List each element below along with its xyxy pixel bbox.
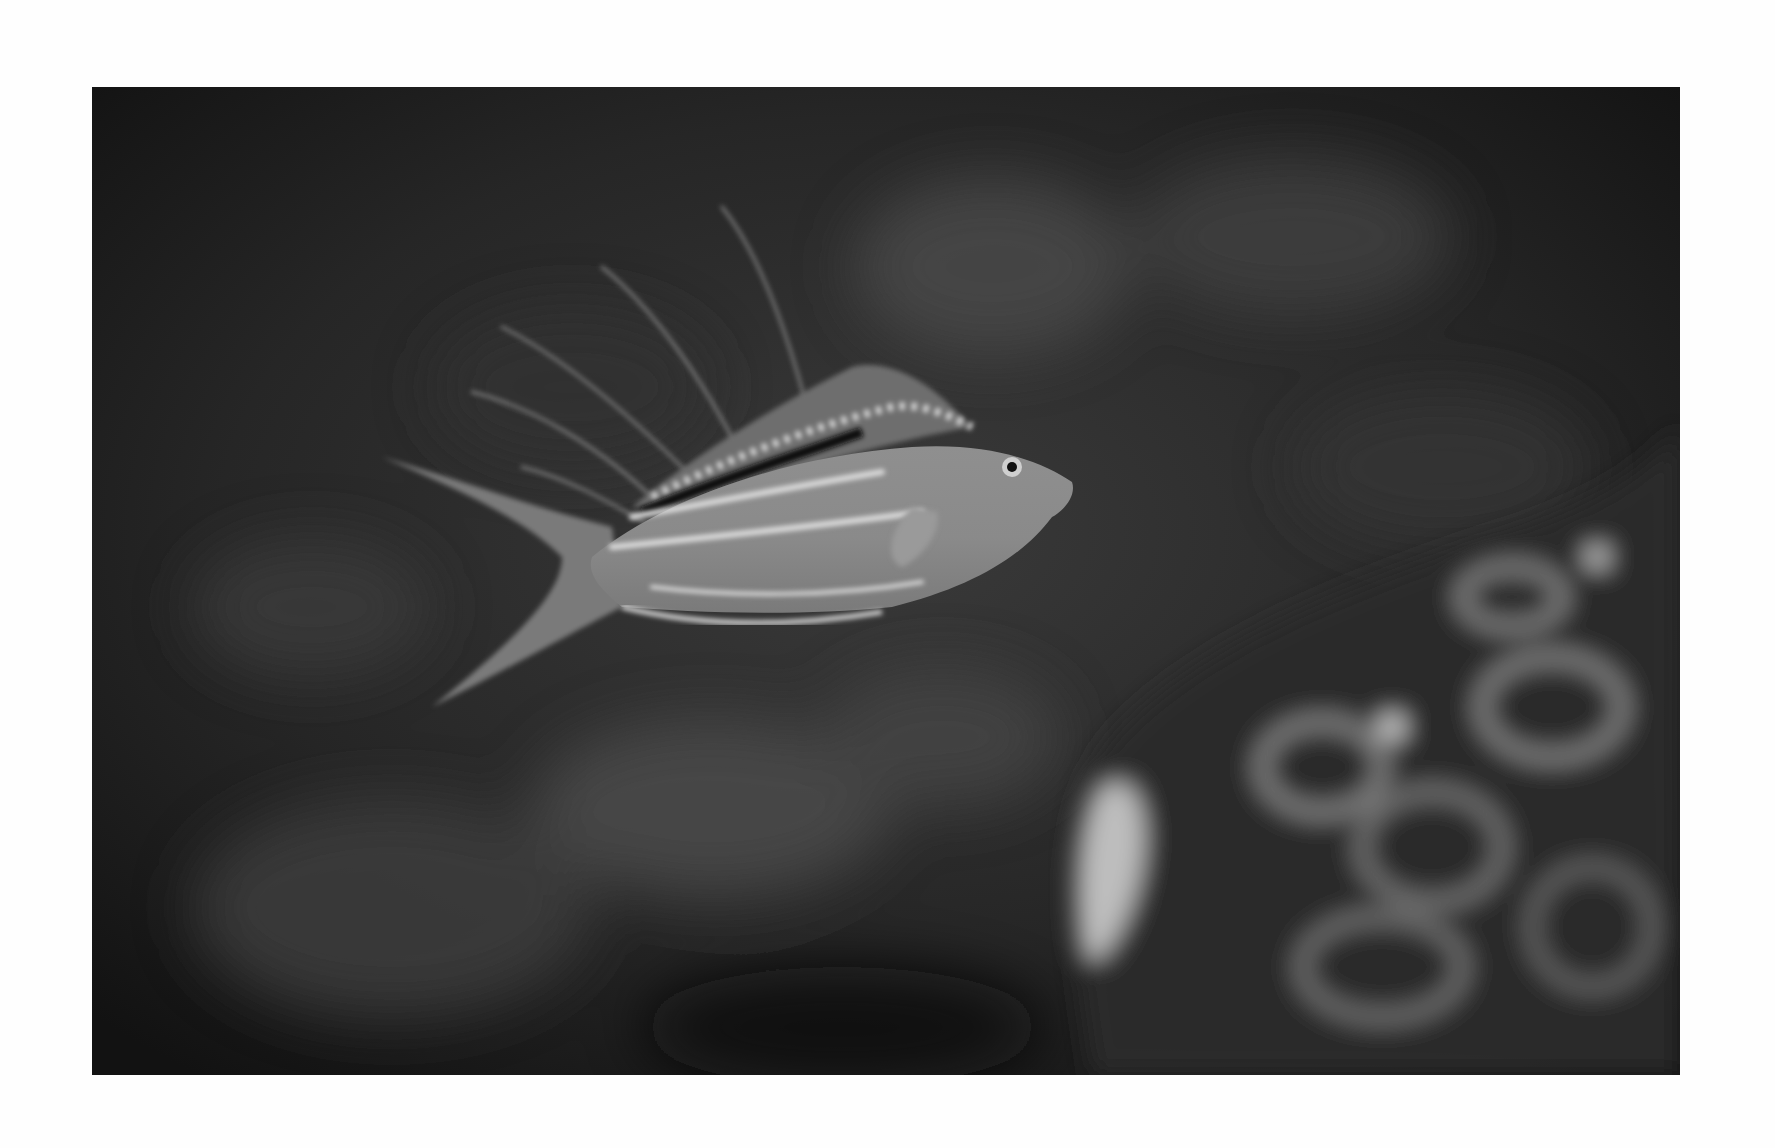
fish-photograph [92, 87, 1680, 1075]
fish-image [92, 87, 1680, 1075]
page [0, 0, 1775, 1148]
